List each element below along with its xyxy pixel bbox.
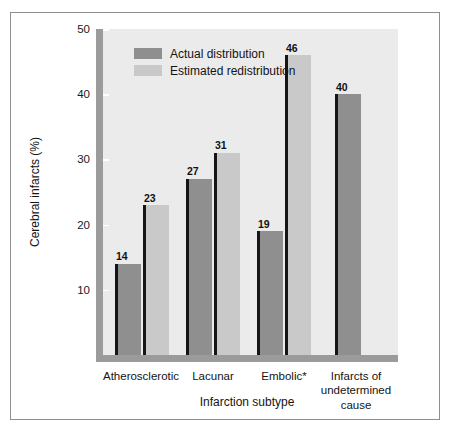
legend-swatch-icon	[134, 48, 162, 59]
bar-atherosclerotic-estimated: 23	[143, 205, 169, 355]
bar-atherosclerotic-actual: 14	[115, 264, 141, 355]
legend: Actual distribution Estimated redistribu…	[134, 46, 295, 80]
bar-fill	[288, 55, 311, 355]
plot-area: 50 40 30 20 10 14 23	[96, 29, 398, 355]
figure-container: 50 40 30 20 10 14 23	[0, 0, 453, 431]
legend-item-estimated: Estimated redistribution	[134, 63, 295, 78]
bar-fill	[189, 179, 212, 355]
bar-lacunar-actual: 27	[186, 179, 212, 355]
bar-value-label: 23	[144, 193, 156, 204]
x-category-label-line1: Infarcts of	[311, 369, 401, 383]
x-axis-title: Infarction subtype	[96, 395, 398, 409]
legend-label: Estimated redistribution	[170, 64, 295, 78]
bar-value-label: 14	[116, 251, 128, 262]
y-tick-mark	[103, 290, 109, 292]
y-tick-mark	[103, 159, 109, 161]
bar-fill	[338, 94, 361, 355]
legend-label: Actual distribution	[170, 47, 265, 61]
bar-undetermined-actual: 40	[335, 94, 361, 355]
bar-fill	[118, 264, 141, 355]
y-tick-mark	[103, 94, 109, 96]
y-tick-label: 10	[77, 284, 90, 296]
y-axis-spine	[96, 29, 103, 355]
bar-value-label: 31	[215, 140, 227, 151]
bar-value-label: 19	[258, 219, 270, 230]
legend-item-actual: Actual distribution	[134, 46, 295, 61]
bar-embolic-estimated: 46	[285, 55, 311, 355]
y-tick-label: 20	[77, 219, 90, 231]
bar-lacunar-estimated: 31	[214, 153, 240, 355]
bar-value-label: 27	[187, 166, 199, 177]
legend-swatch-icon	[134, 65, 162, 76]
x-axis-baseline	[96, 355, 398, 362]
y-tick-label: 30	[77, 153, 90, 165]
bar-fill	[146, 205, 169, 355]
y-axis-title: Cerebral infarcts (%)	[28, 29, 44, 355]
bar-fill	[217, 153, 240, 355]
bar-embolic-actual: 19	[257, 231, 283, 355]
y-tick-label: 40	[77, 88, 90, 100]
bar-value-label: 40	[336, 82, 348, 93]
y-tick-label: 50	[77, 23, 90, 35]
y-tick-mark	[103, 225, 109, 227]
bar-fill	[260, 231, 283, 355]
y-tick-mark	[103, 29, 109, 31]
